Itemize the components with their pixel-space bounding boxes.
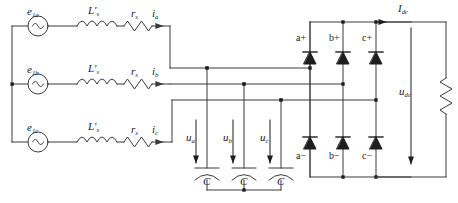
current-phase-c-label: ic <box>152 124 158 136</box>
resistor-phase-c-sub: s <box>135 129 138 136</box>
circuit-diagram: e1a e1b e1c L′s L′s L′s rs rs rs ia ib i… <box>0 0 458 203</box>
source-phase-c-sub: 1c <box>32 127 38 134</box>
neutral-bus <box>12 26 28 142</box>
inductor-phase-c-label: L′s <box>88 121 99 133</box>
dc-output-branch <box>376 22 452 177</box>
current-phase-a-sub: a <box>155 13 158 20</box>
current-phase-a-label: ia <box>152 8 158 20</box>
diode-a-plus-label: a+ <box>296 33 306 43</box>
source-phase-b-label: e1b <box>27 64 39 76</box>
phase-b-branch <box>28 74 343 94</box>
resistor-phase-b-sub: s <box>135 71 138 78</box>
source-phase-b-sub: 1b <box>32 69 39 76</box>
voltage-uc-sub: c <box>266 137 269 144</box>
diode-c-minus-label: c− <box>362 151 372 161</box>
voltage-ua-sub: a <box>192 137 195 144</box>
current-phase-b-sub: b <box>155 71 158 78</box>
phase-a-branch <box>28 16 310 68</box>
current-phase-c-sub: c <box>155 129 158 136</box>
dc-voltage-label: udc <box>399 86 411 98</box>
dc-current-sub: dc <box>402 8 408 15</box>
source-phase-c-label: e1c <box>27 122 38 134</box>
resistor-phase-a-sub: s <box>135 13 138 20</box>
source-phase-a-sub: 1a <box>32 11 39 18</box>
inductor-phase-a-sub: s <box>97 10 100 17</box>
source-phase-a-label: e1a <box>27 6 39 18</box>
resistor-phase-b-label: rs <box>131 66 138 78</box>
inductor-phase-a-label: L′s <box>88 5 99 17</box>
capacitor-star-point <box>242 188 245 191</box>
diode-c-plus-label: c+ <box>362 33 372 43</box>
circuit-schematic-svg <box>0 0 458 203</box>
diode-b-plus-label: b+ <box>329 33 340 43</box>
phase-c-branch <box>28 100 376 152</box>
diode-a-minus-label: a− <box>296 151 306 161</box>
diode-b-minus-label: b− <box>329 151 340 161</box>
current-phase-b-label: ib <box>152 66 158 78</box>
capacitor-b-label: C <box>240 176 247 187</box>
voltage-ua-label: ua <box>186 132 195 144</box>
capacitor-a-label: C <box>203 176 210 187</box>
voltage-ub-sub: b <box>229 137 232 144</box>
resistor-phase-a-label: rs <box>131 8 138 20</box>
dc-current-label: Idc <box>398 3 408 15</box>
inductor-phase-b-label: L′s <box>88 63 99 75</box>
inductor-phase-b-sub: s <box>97 68 100 75</box>
voltage-uc-label: uc <box>260 132 269 144</box>
dc-voltage-sub: dc <box>405 91 411 98</box>
resistor-phase-c-label: rs <box>131 124 138 136</box>
voltage-ub-label: ub <box>223 132 232 144</box>
capacitor-c-label: C <box>277 176 284 187</box>
inductor-phase-c-sub: s <box>97 126 100 133</box>
